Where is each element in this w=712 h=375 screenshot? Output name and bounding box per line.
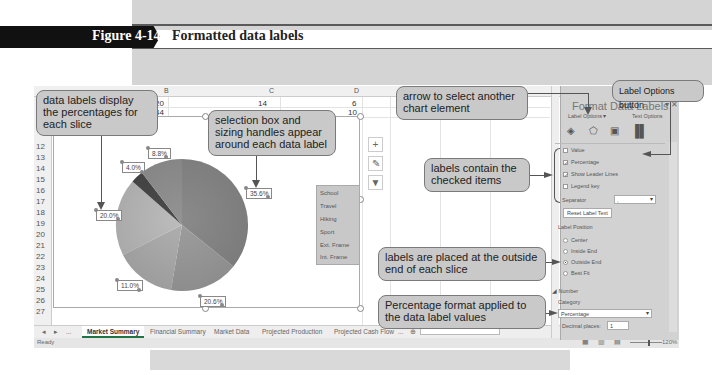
row-27[interactable]: 27 — [36, 307, 45, 316]
row-12[interactable]: 12 — [36, 142, 45, 151]
chart-filters-button[interactable]: ▼ — [368, 175, 383, 190]
percentage-checkbox[interactable]: ✓Percentage — [563, 159, 599, 165]
legend-item-travel[interactable]: Travel — [320, 203, 336, 209]
size-properties-icon[interactable]: ▣ — [610, 125, 619, 136]
legend-key-checkbox[interactable]: Legend key — [563, 183, 599, 189]
inside-end-radio[interactable]: Inside End — [563, 248, 597, 254]
legend-item-ext-frame[interactable]: Ext. Frame — [320, 242, 349, 248]
label-handle[interactable] — [244, 186, 248, 190]
more-tabs-right[interactable]: ... — [398, 328, 403, 335]
legend-item-sport[interactable]: Sport — [320, 229, 334, 235]
column-c[interactable]: C — [269, 87, 274, 94]
grid-line — [440, 97, 441, 325]
row-21[interactable]: 21 — [36, 241, 45, 250]
tab-projected-cash-flow[interactable]: Projected Cash Flow — [334, 328, 394, 335]
figure-low-band — [150, 350, 570, 370]
pie-chart[interactable] — [115, 155, 249, 295]
callout-labels-contain: labels contain the checked items — [424, 158, 530, 192]
grid-line — [362, 97, 363, 325]
plus-icon: + — [373, 139, 379, 150]
callout-data-labels: data labels display the percentages for … — [36, 90, 158, 136]
row-23[interactable]: 23 — [36, 263, 45, 272]
label-position-heading: Label Position — [558, 224, 593, 230]
row-14[interactable]: 14 — [36, 164, 45, 173]
callout-arrow — [642, 151, 651, 157]
row-22[interactable]: 22 — [36, 252, 45, 261]
label-options-icon[interactable]: ▐▌ — [631, 124, 648, 138]
column-d[interactable]: D — [354, 87, 359, 94]
label-handle[interactable] — [220, 303, 224, 307]
cell-d1[interactable]: 6 — [352, 99, 356, 108]
legend-item-hiking[interactable]: Hiking — [320, 216, 337, 222]
figure-rule-top — [132, 24, 712, 26]
row-13[interactable]: 13 — [36, 153, 45, 162]
text-options-tab[interactable]: Text Options — [632, 113, 663, 119]
more-tabs-left[interactable]: ... — [66, 328, 71, 335]
label-handle[interactable] — [120, 160, 124, 164]
scroll-tabs-right[interactable]: ▸ — [54, 328, 58, 336]
dropdown-arrow-icon[interactable]: ▾ — [603, 113, 606, 119]
new-sheet-button[interactable]: ⊕ — [410, 328, 416, 336]
outside-end-radio[interactable]: Outside End — [563, 259, 601, 265]
label-handle[interactable] — [137, 288, 141, 292]
callout-connector — [101, 136, 102, 202]
label-handle[interactable] — [266, 195, 270, 199]
decimal-places-label: Decimal places: — [562, 323, 601, 329]
tab-financial-summary[interactable]: Financial Summary — [150, 328, 206, 335]
center-radio[interactable]: Center — [563, 237, 588, 243]
leader-lines-checkbox[interactable]: ✓Show Leader Lines — [563, 171, 618, 177]
legend-item-int-frame[interactable]: Int. Frame — [320, 254, 347, 260]
callout-arrow — [544, 172, 553, 178]
filter-icon: ▼ — [371, 177, 381, 188]
category-dropdown[interactable]: Percentage▾ — [558, 309, 652, 318]
brace-icon — [554, 148, 560, 203]
row-20[interactable]: 20 — [36, 230, 45, 239]
tab-market-data[interactable]: Market Data — [214, 328, 249, 335]
label-handle[interactable] — [198, 294, 202, 298]
callout-arrow — [252, 180, 260, 188]
figure-number: Figure 4-14 — [92, 28, 161, 44]
callout-arrow — [97, 202, 105, 210]
row-17[interactable]: 17 — [36, 197, 45, 206]
tab-market-summary[interactable]: Market Summary — [82, 326, 144, 338]
row-19[interactable]: 19 — [36, 219, 45, 228]
row-25[interactable]: 25 — [36, 285, 45, 294]
decimal-places-input[interactable]: 1 — [607, 321, 629, 330]
callout-arrow — [549, 310, 558, 316]
column-b[interactable]: B — [164, 87, 169, 94]
number-section-toggle[interactable]: ◢ Number — [552, 288, 578, 294]
label-handle[interactable] — [164, 155, 168, 159]
label-handle[interactable] — [140, 170, 144, 174]
tab-projected-production[interactable]: Projected Production — [262, 328, 322, 335]
zoom-slider-thumb[interactable] — [648, 339, 650, 346]
reset-label-text-button[interactable]: Reset Label Text — [563, 208, 612, 218]
chart-legend[interactable]: School Travel Hiking Sport Ext. Frame In… — [316, 185, 360, 265]
effects-icon[interactable]: ⬠ — [589, 125, 598, 136]
label-handle[interactable] — [116, 217, 120, 221]
label-handle[interactable] — [115, 278, 119, 282]
callout-outside-end: labels are placed at the outside end of … — [378, 247, 546, 281]
figure-title: Formatted data labels — [172, 28, 303, 44]
value-checkbox[interactable]: Value — [563, 147, 585, 153]
row-26[interactable]: 26 — [36, 296, 45, 305]
zoom-slider[interactable] — [630, 342, 662, 343]
row-15[interactable]: 15 — [36, 175, 45, 184]
callout-arrow — [552, 259, 561, 265]
row-24[interactable]: 24 — [36, 274, 45, 283]
cell-c1[interactable]: 14 — [258, 99, 267, 108]
separator-dropdown[interactable]: ,▾ — [614, 195, 656, 204]
legend-item-school[interactable]: School — [320, 190, 338, 196]
row-18[interactable]: 18 — [36, 208, 45, 217]
chart-sizing-handle[interactable] — [357, 305, 364, 312]
chart-styles-button[interactable]: ✎ — [368, 156, 383, 171]
label-handle[interactable] — [146, 146, 150, 150]
pane-scrollbar[interactable] — [669, 142, 677, 332]
chart-sizing-handle[interactable] — [357, 113, 364, 120]
chart-elements-button[interactable]: + — [368, 137, 383, 152]
category-label: Category — [558, 299, 580, 305]
row-16[interactable]: 16 — [36, 186, 45, 195]
fill-line-icon[interactable]: ◈ — [567, 125, 575, 136]
scroll-tabs-left[interactable]: ◂ — [42, 328, 46, 336]
callout-label-options-button: Label Options button — [612, 80, 704, 102]
best-fit-radio[interactable]: Best Fit — [563, 270, 590, 276]
